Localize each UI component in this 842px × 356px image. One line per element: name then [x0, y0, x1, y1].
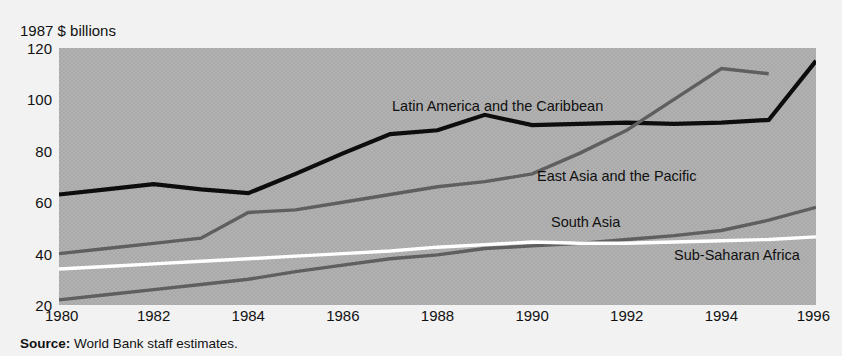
- x-axis-tick-1994: 1994: [705, 307, 738, 324]
- x-axis-tick-1984: 1984: [232, 307, 265, 324]
- x-axis-tick-1992: 1992: [610, 307, 643, 324]
- y-axis-tick-100: 100: [6, 91, 52, 108]
- source-note: Source: World Bank staff estimates.: [20, 336, 238, 351]
- y-axis-tick-120: 120: [6, 40, 52, 57]
- y-axis: 12010080604020: [0, 48, 52, 305]
- series-label-sub-saharan-africa: Sub-Saharan Africa: [674, 247, 800, 263]
- x-axis-tick-1986: 1986: [326, 307, 359, 324]
- series-label-south-asia: South Asia: [551, 214, 620, 230]
- x-axis-tick-1988: 1988: [421, 307, 454, 324]
- plot-area: [59, 48, 816, 305]
- x-axis: 198019821984198619881990199219941996: [59, 307, 816, 331]
- y-axis-unit-caption: 1987 $ billions: [20, 22, 116, 39]
- series-label-east-asia: East Asia and the Pacific: [537, 168, 697, 184]
- plot-svg: [59, 48, 816, 305]
- x-axis-tick-1996: 1996: [797, 307, 830, 324]
- source-note-label: Source:: [20, 336, 70, 351]
- x-axis-tick-1990: 1990: [515, 307, 548, 324]
- y-axis-tick-60: 60: [6, 194, 52, 211]
- series-line-east-asia-and-the-pacific: [59, 69, 769, 254]
- source-note-text: World Bank staff estimates.: [70, 336, 238, 351]
- y-axis-tick-80: 80: [6, 142, 52, 159]
- series-label-latin-america: Latin America and the Caribbean: [392, 98, 603, 114]
- x-axis-tick-1980: 1980: [45, 307, 78, 324]
- chart-figure: 1987 $ billions 12010080604020 198019821…: [0, 0, 842, 356]
- y-axis-tick-40: 40: [6, 245, 52, 262]
- x-axis-tick-1982: 1982: [137, 307, 170, 324]
